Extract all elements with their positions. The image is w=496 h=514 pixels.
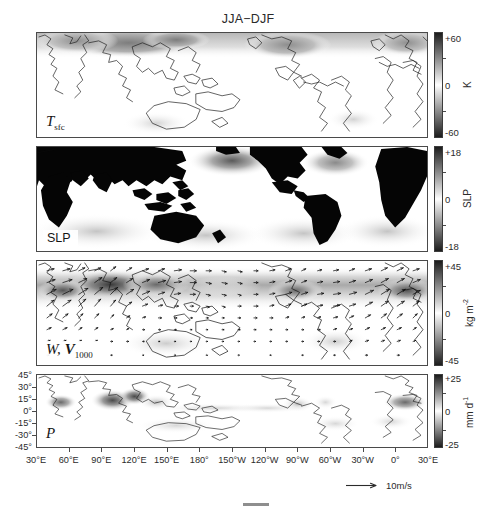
y-tick-mark — [32, 435, 36, 436]
y-tick-mark — [32, 387, 36, 388]
x-tick-mark — [69, 448, 70, 452]
colorbar-precip-mid: 0 — [445, 406, 450, 417]
colorbar-precip-unit-exp: -1 — [462, 396, 469, 402]
y-tick-label: -45° — [15, 442, 32, 452]
map-tsfc — [37, 33, 427, 137]
x-tick-label: 180° — [190, 455, 209, 465]
x-axis-ticks: 30°E 60°E 90°E 120°E 150°E 180° 150°W 12… — [0, 455, 496, 469]
y-tick-mark — [32, 423, 36, 424]
figure-title: JJA−DJF — [0, 12, 496, 26]
panel-tag-tsfc: Tsfc — [43, 113, 70, 133]
vector-key-label: 10m/s — [386, 480, 412, 491]
footer-rule — [243, 503, 269, 506]
colorbar-precip-ticks: +25 0 -25 — [445, 0, 495, 514]
panel-precip: P — [36, 374, 428, 448]
x-tick-label: 90°E — [91, 455, 111, 465]
tsfc-field — [37, 33, 427, 137]
x-tick-mark — [101, 448, 102, 452]
x-tick-label: 150°W — [218, 455, 246, 465]
x-tick-mark — [199, 448, 200, 452]
slp-field — [37, 147, 427, 251]
x-tick-mark — [297, 448, 298, 452]
panel-tag-precip: P — [43, 425, 60, 443]
y-tick-mark — [32, 411, 36, 412]
panel-tag-v-sub: 1000 — [75, 350, 93, 360]
y-tick-label: 0° — [23, 406, 32, 416]
panel-tag-tsfc-sub: sfc — [54, 122, 65, 132]
figure-canvas: JJA−DJF — [0, 0, 496, 514]
x-tick-label: 120°E — [121, 455, 146, 465]
map-precip — [37, 375, 427, 447]
y-tick-label: 15° — [18, 394, 32, 404]
y-tick-label: 45° — [18, 370, 32, 380]
y-tick-mark — [32, 399, 36, 400]
colorbar-slp — [434, 146, 443, 252]
x-tick-mark — [167, 448, 168, 452]
x-tick-label: 90°W — [286, 455, 309, 465]
y-tick-label: -30° — [15, 430, 32, 440]
x-tick-mark — [232, 448, 233, 452]
colorbar-precip-min: -25 — [445, 439, 459, 450]
x-tick-mark — [134, 448, 135, 452]
x-tick-mark — [395, 448, 396, 452]
panel-tag-w-v1000: W, V1000 — [43, 341, 98, 361]
vector-scale-key: 10m/s — [345, 480, 412, 492]
x-tick-label: 0° — [391, 455, 400, 465]
x-tick-mark — [330, 448, 331, 452]
colorbar-precip-max: +25 — [445, 373, 461, 384]
x-tick-label: 120°W — [251, 455, 279, 465]
colorbar-precip — [434, 374, 443, 448]
colorbar-w-v1000 — [434, 260, 443, 366]
panel-tag-slp-main: SLP — [47, 231, 71, 245]
panel-tag-precip-main: P — [46, 425, 55, 441]
x-tick-label: 60°W — [319, 455, 342, 465]
panel-slp: SLP — [36, 146, 428, 252]
x-tick-label: 30°E — [418, 455, 438, 465]
colorbar-precip-unit: mm d-1 — [462, 388, 475, 436]
x-tick-label: 30°W — [351, 455, 374, 465]
panel-tag-w: W, — [46, 341, 61, 357]
colorbar-precip-unit-text: mm d — [464, 403, 475, 428]
x-tick-label: 150°E — [154, 455, 179, 465]
panel-w-v1000: W, V1000 — [36, 260, 428, 366]
precip-field — [37, 375, 427, 447]
colorbar-tsfc — [434, 32, 443, 138]
x-tick-label: 60°E — [59, 455, 79, 465]
x-tick-mark — [265, 448, 266, 452]
map-slp — [37, 147, 427, 251]
panel-tag-v: V — [65, 341, 75, 357]
vector-key-arrow-icon — [345, 481, 381, 492]
y-axis-ticks: 45° 30° 15° 0° -15° -30° -45° — [0, 0, 34, 514]
x-tick-label: 30°E — [26, 455, 46, 465]
x-tick-mark — [363, 448, 364, 452]
panel-tag-slp: SLP — [43, 230, 78, 247]
panel-tsfc: Tsfc — [36, 32, 428, 138]
y-tick-label: 30° — [18, 382, 32, 392]
y-tick-label: -15° — [15, 418, 32, 428]
